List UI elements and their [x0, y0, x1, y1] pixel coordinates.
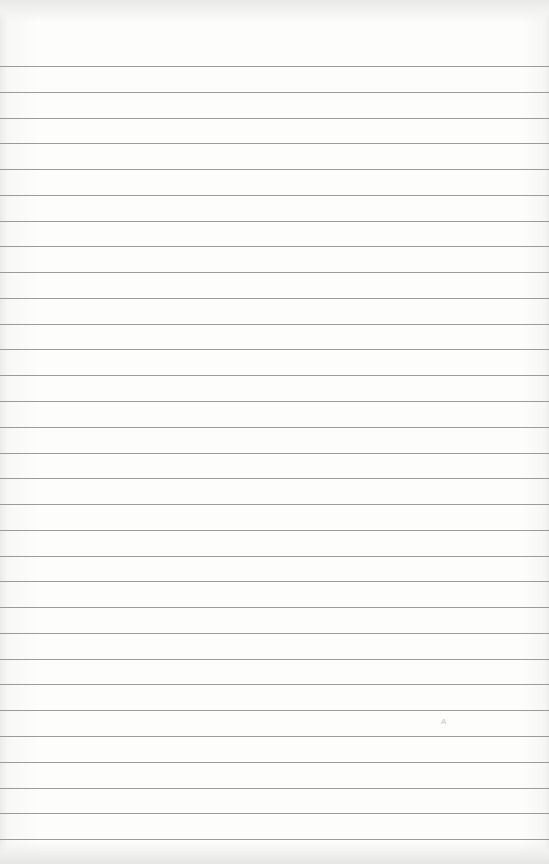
ruled-line: [0, 66, 549, 67]
ruled-line: [0, 710, 549, 711]
ruled-line: [0, 298, 549, 299]
ruled-line: [0, 659, 549, 660]
ruled-line: [0, 530, 549, 531]
ruled-line: [0, 195, 549, 196]
ruled-line: [0, 762, 549, 763]
ruled-line: [0, 453, 549, 454]
faint-mark: A: [441, 717, 446, 726]
ruled-line: [0, 221, 549, 222]
ruled-line: [0, 169, 549, 170]
ruled-line: [0, 118, 549, 119]
ruled-line: [0, 736, 549, 737]
ruled-line: [0, 839, 549, 840]
ruled-line: [0, 633, 549, 634]
ruled-line: [0, 427, 549, 428]
paper-bottom-edge: [0, 842, 549, 864]
ruled-line: [0, 478, 549, 479]
ruled-line: [0, 504, 549, 505]
ruled-line: [0, 246, 549, 247]
paper-top-edge: [0, 0, 549, 22]
ruled-line: [0, 581, 549, 582]
ruled-line: [0, 349, 549, 350]
ruled-line: [0, 401, 549, 402]
ruled-line: [0, 788, 549, 789]
ruled-line: [0, 607, 549, 608]
ruled-line: [0, 684, 549, 685]
lined-paper: A: [0, 0, 549, 864]
ruled-line: [0, 272, 549, 273]
ruled-line: [0, 324, 549, 325]
ruled-line: [0, 556, 549, 557]
ruled-line: [0, 375, 549, 376]
ruled-line: [0, 813, 549, 814]
ruled-line: [0, 92, 549, 93]
ruled-line: [0, 143, 549, 144]
